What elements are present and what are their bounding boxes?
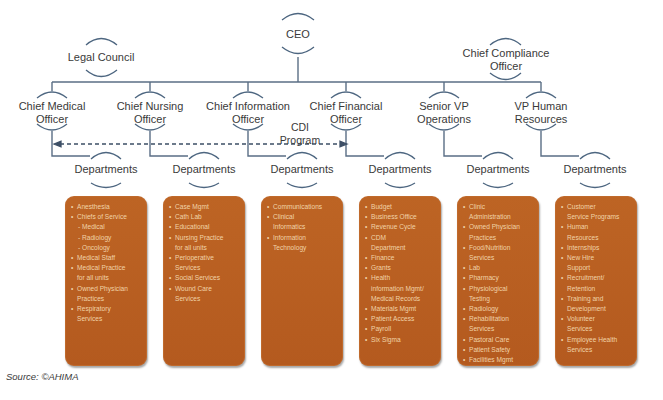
officer-label-line2: Officer <box>19 113 86 126</box>
department-item: - Radiology <box>71 233 143 243</box>
department-item: Patient Safety <box>463 345 535 355</box>
chief-compliance-officer-node: Chief Compliance Officer <box>463 47 550 73</box>
ceo-label: CEO <box>286 28 310 40</box>
department-item: Owned PhysicianPractices <box>71 284 143 304</box>
officer-label-line1: Senior VP <box>417 100 471 113</box>
department-item: Nursing Practicefor all units <box>169 233 241 253</box>
department-item: Anesthesia <box>71 202 143 212</box>
officer-label-line2: Officer <box>117 113 184 126</box>
departments-label: Departments <box>75 163 138 175</box>
officer-senior-vp-operations: Senior VP Operations <box>417 100 471 126</box>
officer-chief-financial: Chief Financial Officer <box>310 100 383 126</box>
department-item: Budget <box>365 202 437 212</box>
department-item: Pharmacy <box>463 273 535 283</box>
officer-label-line1: Chief Medical <box>19 100 86 113</box>
compliance-line1: Chief Compliance <box>463 47 550 60</box>
department-item: Cath Lab <box>169 212 241 222</box>
department-item: Grants <box>365 263 437 273</box>
departments-box-information: CommunicationsClinicalInformaticsInforma… <box>261 196 343 366</box>
department-item: HumanResources <box>561 222 633 242</box>
department-item: Food/NutritionServices <box>463 243 535 263</box>
department-item: Patient Access <box>365 314 437 324</box>
department-item: Business Office <box>365 212 437 222</box>
officer-label-line1: VP Human <box>515 100 568 113</box>
departments-box-nursing: Case MgmtCath LabEducationalNursing Prac… <box>163 196 245 366</box>
officer-vp-human-resources: VP Human Resources <box>515 100 568 126</box>
department-item: New HireSupport <box>561 253 633 273</box>
department-item: - Oncology <box>71 243 143 253</box>
department-item: RespiratoryServices <box>71 304 143 324</box>
officer-chief-medical: Chief Medical Officer <box>19 100 86 126</box>
departments-box-operations: ClinicAdministrationOwned PhysicianPract… <box>457 196 539 366</box>
department-item: Materials Mgmt <box>365 304 437 314</box>
departments-box-medical: AnesthesiaChiefs of Service- Medical- Ra… <box>65 196 147 366</box>
officer-label-line2: Resources <box>515 113 568 126</box>
department-item: Payroll <box>365 324 437 334</box>
officer-chief-nursing: Chief Nursing Officer <box>117 100 184 126</box>
departments-label: Departments <box>271 163 334 175</box>
department-item: Finance <box>365 253 437 263</box>
department-item: Internships <box>561 243 633 253</box>
department-item: Educational <box>169 222 241 232</box>
officer-label-line1: Chief Financial <box>310 100 383 113</box>
department-item: Communications <box>267 202 339 212</box>
department-item: - Medical <box>71 222 143 232</box>
departments-label: Departments <box>173 163 236 175</box>
department-item: VolunteerServices <box>561 314 633 334</box>
cdi-line1: CDI <box>280 121 320 134</box>
department-item: Wound CareServices <box>169 284 241 304</box>
department-item: Medical Staff <box>71 253 143 263</box>
department-item: Case Mgmt <box>169 202 241 212</box>
department-item: Employee HealthServices <box>561 335 633 355</box>
officer-label-line1: Chief Nursing <box>117 100 184 113</box>
department-item: Recruitment/Retention <box>561 273 633 293</box>
source-caption: Source: ©AHIMA <box>6 371 78 382</box>
department-item: Lab <box>463 263 535 273</box>
department-item: PhysiologicalTesting <box>463 284 535 304</box>
departments-label: Departments <box>467 163 530 175</box>
department-item: Chiefs of Service <box>71 212 143 222</box>
department-list: CommunicationsClinicalInformaticsInforma… <box>261 196 343 253</box>
department-item: Facilities Mgmt <box>463 355 535 365</box>
department-list: CustomerService ProgramsHumanResourcesIn… <box>555 196 637 355</box>
departments-box-financial: BudgetBusiness OfficeRevenue CycleCDMDep… <box>359 196 441 366</box>
department-item: PerioperativeServices <box>169 253 241 273</box>
compliance-line2: Officer <box>463 60 550 73</box>
department-item: Healthinformation Mgmt/Medical Records <box>365 273 437 304</box>
department-item: CDMDepartment <box>365 233 437 253</box>
officer-label-line2: Operations <box>417 113 471 126</box>
departments-box-human-resources: CustomerService ProgramsHumanResourcesIn… <box>555 196 637 366</box>
department-list: AnesthesiaChiefs of Service- Medical- Ra… <box>65 196 147 324</box>
officer-label-line1: Chief Information <box>206 100 290 113</box>
ceo-node: CEO <box>286 28 310 41</box>
departments-label: Departments <box>564 163 627 175</box>
department-item: Medical Practicefor all units <box>71 263 143 283</box>
officer-chief-information: Chief Information Officer <box>206 100 290 126</box>
department-item: RehabilitationServices <box>463 314 535 334</box>
legal-council-node: Legal Council <box>68 51 135 64</box>
department-item: ClinicalInformatics <box>267 212 339 232</box>
cdi-line2: Program <box>280 134 320 147</box>
cdi-program-label: CDI Program <box>280 121 320 147</box>
officer-label-line2: Officer <box>310 113 383 126</box>
legal-council-label: Legal Council <box>68 51 135 63</box>
department-item: Revenue Cycle <box>365 222 437 232</box>
departments-label: Departments <box>369 163 432 175</box>
department-item: Six Sigma <box>365 335 437 345</box>
department-item: Pastoral Care <box>463 335 535 345</box>
department-item: InformationTechnology <box>267 233 339 253</box>
department-list: ClinicAdministrationOwned PhysicianPract… <box>457 196 539 365</box>
department-item: Owned PhysicianPractices <box>463 222 535 242</box>
department-item: Social Services <box>169 273 241 283</box>
department-item: Training andDevelopment <box>561 294 633 314</box>
department-item: CustomerService Programs <box>561 202 633 222</box>
officer-label-line2: Officer <box>206 113 290 126</box>
department-item: ClinicAdministration <box>463 202 535 222</box>
department-item: Radiology <box>463 304 535 314</box>
department-list: Case MgmtCath LabEducationalNursing Prac… <box>163 196 245 304</box>
department-list: BudgetBusiness OfficeRevenue CycleCDMDep… <box>359 196 441 345</box>
